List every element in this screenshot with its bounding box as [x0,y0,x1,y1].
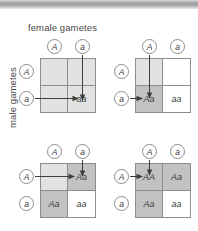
genotype-grid: aa [40,58,96,113]
punnett-square-top-left: A a A a aa [14,38,100,114]
genotype-grid: Aa aa [135,58,191,113]
column-gamete-circle-2: a [170,144,185,159]
genotype-cell [136,59,163,86]
punnett-square-bottom-right: A a A a AA Aa Aa aa [109,143,195,219]
genotype-cell: Aa [41,191,68,218]
punnett-square-bottom-left: A a A a Aa Aa aa [14,143,100,219]
column-gamete-circle-1: A [142,39,157,54]
genotype-cell: Aa [68,164,95,191]
genotype-cell [41,164,68,191]
genotype-cell: aa [163,86,190,113]
column-gamete-circle-1: A [47,39,62,54]
genotype-cell [41,86,68,113]
column-gamete-circle-1: A [47,144,62,159]
row-gamete-circle-2: a [114,196,129,211]
column-gamete-circle-1: A [142,144,157,159]
genotype-cell: Aa [136,86,163,113]
genotype-cell: aa [68,86,95,113]
row-gamete-circle-1: A [114,169,129,184]
row-gamete-circle-1: A [114,64,129,79]
row-gamete-circle-2: a [114,91,129,106]
row-gamete-circle-1: A [19,64,34,79]
row-gamete-circle-1: A [19,169,34,184]
genotype-cell: Aa [163,164,190,191]
top-decorative-bar [0,0,198,9]
genotype-cell: aa [68,191,95,218]
genotype-cell: AA [136,164,163,191]
genotype-cell: Aa [136,191,163,218]
genotype-cell [68,59,95,86]
column-gamete-circle-2: a [170,39,185,54]
female-gametes-axis-label: female gametes [28,22,97,33]
row-gamete-circle-2: a [19,196,34,211]
genotype-cell: aa [163,191,190,218]
row-gamete-circle-2: a [19,91,34,106]
genotype-cell [41,59,68,86]
genotype-grid: AA Aa Aa aa [135,163,191,218]
column-gamete-circle-2: a [75,144,90,159]
punnett-square-top-right: A a A a Aa aa [109,38,195,114]
genotype-grid: Aa Aa aa [40,163,96,218]
column-gamete-circle-2: a [75,39,90,54]
genotype-cell [163,59,190,86]
